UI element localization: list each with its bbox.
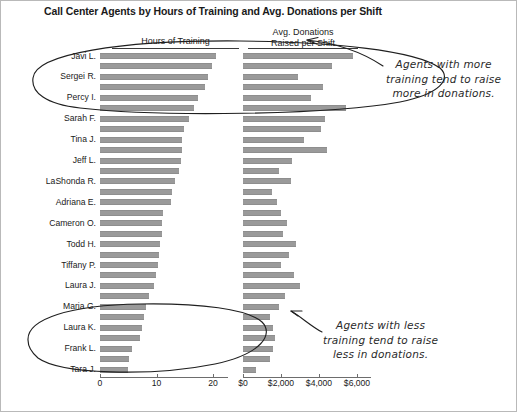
- category-label: Tiffany P.: [0, 261, 96, 270]
- bar: [243, 137, 304, 143]
- bar-row: [100, 137, 225, 143]
- bar-row: [243, 252, 368, 258]
- bar: [243, 168, 279, 174]
- bar-row: [100, 293, 225, 299]
- bar: [243, 283, 300, 289]
- axis-tick-label: 10: [152, 378, 162, 388]
- bar-row: [243, 137, 368, 143]
- bar: [100, 283, 154, 289]
- bar: [100, 325, 142, 331]
- bar: [100, 356, 129, 362]
- bar-row: [100, 53, 225, 59]
- bar-row: [100, 168, 225, 174]
- bar-row: [100, 199, 225, 205]
- bar: [243, 335, 275, 341]
- bar-row: [243, 53, 368, 59]
- category-label: LaShonda R.: [0, 177, 96, 186]
- bar-row: [243, 105, 368, 111]
- bar-row: [100, 189, 225, 195]
- bar-row: [100, 210, 225, 216]
- bar-row: [100, 84, 225, 90]
- page-title: Call Center Agents by Hours of Training …: [44, 5, 382, 17]
- category-label: Maria G.: [0, 302, 96, 311]
- annotation-bottom-text: Agents with lesstraining tend to raisele…: [323, 318, 438, 362]
- bar-row: [100, 252, 225, 258]
- axis-tick-label: $0: [238, 378, 248, 388]
- column-header-donations: Avg. Donations Raised per Shift: [248, 27, 358, 49]
- category-label: Jeff L.: [0, 156, 96, 165]
- bar-row: [243, 63, 368, 69]
- bar: [243, 158, 292, 164]
- category-label: Laura K.: [0, 323, 96, 332]
- category-label: Sarah F.: [0, 114, 96, 123]
- bar-row: [243, 74, 368, 80]
- bar: [100, 262, 158, 268]
- bar: [100, 220, 162, 226]
- bar: [100, 314, 144, 320]
- bar: [243, 210, 281, 216]
- bar: [100, 335, 140, 341]
- bar: [100, 272, 156, 278]
- bar: [243, 53, 353, 59]
- bar-row: [243, 293, 368, 299]
- bar: [100, 63, 212, 69]
- bar-row: [100, 325, 225, 331]
- category-label: Tara J.: [0, 365, 96, 374]
- bar: [100, 95, 198, 101]
- bar-row: [100, 126, 225, 132]
- bar: [243, 272, 294, 278]
- column-header-donations-line2: Raised per Shift: [248, 38, 358, 50]
- category-label: Sergei R.: [0, 72, 96, 81]
- bar-row: [243, 241, 368, 247]
- bar: [243, 63, 332, 69]
- bar-panel-hours: [100, 50, 225, 376]
- bar-row: [243, 199, 368, 205]
- bar: [100, 304, 146, 310]
- axis-tick-label: $2,000: [268, 378, 294, 388]
- bar-row: [100, 220, 225, 226]
- annotation-line: Agents with less: [323, 318, 438, 333]
- bar-row: [243, 210, 368, 216]
- bar-row: [100, 335, 225, 341]
- axis-tick-label: 20: [208, 378, 218, 388]
- bar: [100, 231, 162, 237]
- annotation-line: more in donations.: [386, 86, 501, 101]
- annotation-line: less in donations.: [323, 347, 438, 362]
- bar: [100, 53, 216, 59]
- bar: [243, 147, 327, 153]
- category-label: Frank L.: [0, 344, 96, 353]
- bar-row: [243, 272, 368, 278]
- category-label: Tina J.: [0, 135, 96, 144]
- category-label: Todd H.: [0, 240, 96, 249]
- bar-row: [100, 314, 225, 320]
- annotation-line: training tend to raise: [323, 333, 438, 348]
- bar: [243, 241, 296, 247]
- bar-row: [243, 367, 368, 373]
- bar-row: [243, 189, 368, 195]
- bar-row: [100, 346, 225, 352]
- bar-row: [100, 241, 225, 247]
- category-label: Laura J.: [0, 281, 96, 290]
- bar: [243, 84, 323, 90]
- bar: [243, 116, 325, 122]
- bar-row: [243, 84, 368, 90]
- bar: [243, 304, 279, 310]
- bar-row: [243, 126, 368, 132]
- bar: [243, 293, 285, 299]
- bar: [100, 74, 208, 80]
- bar: [100, 105, 194, 111]
- bar-row: [100, 74, 225, 80]
- bar: [100, 367, 128, 373]
- category-label-column: Javi L.Sergei R.Percy I.Sarah F.Tina J.J…: [0, 50, 96, 376]
- bar: [100, 189, 172, 195]
- category-label: Adriana E.: [0, 198, 96, 207]
- bar: [243, 199, 277, 205]
- axis-tick-label: 0: [98, 378, 103, 388]
- bar-row: [243, 158, 368, 164]
- bar-row: [100, 105, 225, 111]
- bar: [100, 126, 184, 132]
- bar-row: [243, 147, 368, 153]
- annotation-line: Agents with more: [386, 57, 501, 72]
- bar-row: [100, 63, 225, 69]
- bar-row: [243, 95, 368, 101]
